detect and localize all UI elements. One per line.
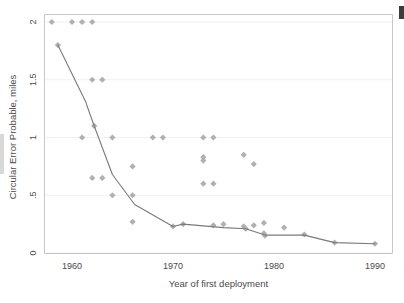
y-axis-label: Circular Error Probable, miles (7, 74, 18, 199)
data-point-marker (301, 231, 307, 237)
data-point-marker (69, 19, 75, 25)
data-point-marker (281, 224, 287, 230)
y-tick-label: 0 (28, 250, 38, 255)
data-point-marker (251, 161, 257, 167)
trend-line (58, 45, 375, 244)
data-point-marker (200, 158, 206, 164)
x-tick-labels: 1960197019801990 (62, 261, 385, 271)
data-point-marker (150, 134, 156, 140)
trend-line-path (58, 45, 375, 244)
y-tick-label: 1.5 (28, 73, 38, 86)
data-point-marker (220, 221, 226, 227)
data-point-marker (89, 175, 95, 181)
data-point-marker (130, 163, 136, 169)
data-point-marker (241, 152, 247, 158)
scatter-plot: 0.511.52 1960197019801990 Circular Error… (0, 0, 404, 303)
data-point-marker (79, 19, 85, 25)
data-point-marker (99, 175, 105, 181)
x-axis-label: Year of first deployment (169, 278, 269, 289)
x-tick-label: 1980 (264, 261, 284, 271)
left-edge-artifact (0, 134, 4, 174)
right-edge-artifact (399, 6, 404, 19)
data-point-marker (79, 134, 85, 140)
data-point-marker (261, 220, 267, 226)
grid-lines (45, 22, 393, 253)
data-point-marker (109, 134, 115, 140)
x-tick-label: 1970 (163, 261, 183, 271)
x-tick-label: 1960 (62, 261, 82, 271)
x-tick-label: 1990 (365, 261, 385, 271)
data-point-marker (130, 192, 136, 198)
data-point-marker (130, 219, 136, 225)
y-tick-label: 2 (28, 19, 38, 24)
data-point-marker (200, 181, 206, 187)
data-point-marker (89, 19, 95, 25)
data-point-marker (210, 134, 216, 140)
y-tick-label: .5 (28, 191, 38, 199)
data-point-marker (109, 192, 115, 198)
data-point-marker (160, 134, 166, 140)
data-point-marker (251, 222, 257, 228)
chart-figure: 0.511.52 1960197019801990 Circular Error… (0, 0, 404, 303)
y-tick-label: 1 (28, 135, 38, 140)
data-point-marker (99, 77, 105, 83)
y-tick-labels: 0.511.52 (28, 19, 38, 255)
data-point-marker (200, 134, 206, 140)
data-markers (49, 19, 378, 247)
data-point-marker (89, 77, 95, 83)
data-point-marker (210, 181, 216, 187)
data-point-marker (49, 19, 55, 25)
